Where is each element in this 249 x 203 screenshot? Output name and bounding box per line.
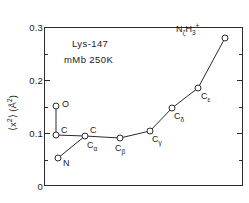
point-label-C2: C xyxy=(90,125,97,135)
point-label-Cg-sub: γ xyxy=(159,139,162,146)
y-axis-title-x: ⟨x xyxy=(7,122,18,131)
point-label-Nz-H-sub: 3 xyxy=(192,29,196,36)
point-label-Ca-sub: α xyxy=(94,145,98,152)
point-label-N: N xyxy=(63,158,70,168)
point-label-Cb: Cβ xyxy=(115,143,125,155)
annotation-condition: mMb 250K xyxy=(64,54,113,65)
point-label-Nz-H-sup: + xyxy=(196,22,200,29)
point-label-Ce: Cε xyxy=(201,91,210,103)
y-axis-title-sup1: 2 xyxy=(6,118,13,122)
chart-screenshot: ⟨x2⟩ (Å2) 0.3 0.2 0.1 0 Lys-147 mMb 250K xyxy=(0,0,249,203)
y-axis-title-mid: ⟩ (Å xyxy=(7,102,18,118)
y-axis-title-sup2: 2 xyxy=(6,98,13,102)
point-label-Cb-sub: β xyxy=(122,148,126,155)
point-label-Cd: Cδ xyxy=(174,111,184,123)
annotation-sample: Lys-147 xyxy=(72,38,108,49)
plot-frame xyxy=(44,27,243,186)
y-axis-title-close: ) xyxy=(7,95,18,98)
y-tick-label-0.3: 0.3 xyxy=(29,22,43,33)
point-label-Ce-sub: ε xyxy=(208,96,211,103)
y-axis-title: ⟨x2⟩ (Å2) xyxy=(6,83,18,143)
y-tick-label-0: 0 xyxy=(38,181,43,192)
point-label-Nz: NζH3+ xyxy=(176,22,199,36)
point-label-C: C xyxy=(61,125,68,135)
y-tick-label-0.2: 0.2 xyxy=(29,75,43,86)
point-label-Cd-sub: δ xyxy=(181,116,185,123)
y-tick-label-0.1: 0.1 xyxy=(29,128,43,139)
point-label-O: O xyxy=(62,99,69,109)
point-label-Cg: Cγ xyxy=(152,134,162,146)
point-label-Ca: Cα xyxy=(87,140,97,152)
